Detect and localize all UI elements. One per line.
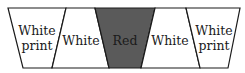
label-right-white: White <box>151 33 188 48</box>
label-line: White <box>151 33 188 48</box>
label-line: print <box>195 38 232 53</box>
label-right-white-print: White print <box>195 23 232 53</box>
label-line: print <box>18 38 55 53</box>
label-line: Red <box>113 33 138 48</box>
label-line: White <box>18 23 55 38</box>
label-left-white: White <box>62 33 99 48</box>
label-line: White <box>62 33 99 48</box>
label-center-red: Red <box>113 33 138 48</box>
label-left-white-print: White print <box>18 23 55 53</box>
label-line: White <box>195 23 232 38</box>
